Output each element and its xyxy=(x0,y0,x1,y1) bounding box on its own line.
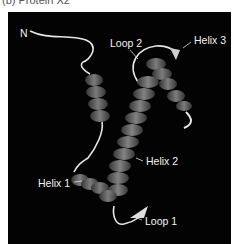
label-helix-1: Helix 1 xyxy=(38,178,70,189)
label-helix-3: Helix 3 xyxy=(194,35,226,46)
protein-structure-panel: N Loop 2 Helix 3 Helix 2 Helix 1 Loop 1 xyxy=(8,12,231,244)
label-helix-2: Helix 2 xyxy=(146,156,178,167)
label-loop-2: Loop 2 xyxy=(110,38,142,49)
label-n-terminus: N xyxy=(20,28,28,39)
label-loop-1: Loop 1 xyxy=(145,216,177,227)
figure-caption: (b) Protein X2 xyxy=(2,0,70,6)
